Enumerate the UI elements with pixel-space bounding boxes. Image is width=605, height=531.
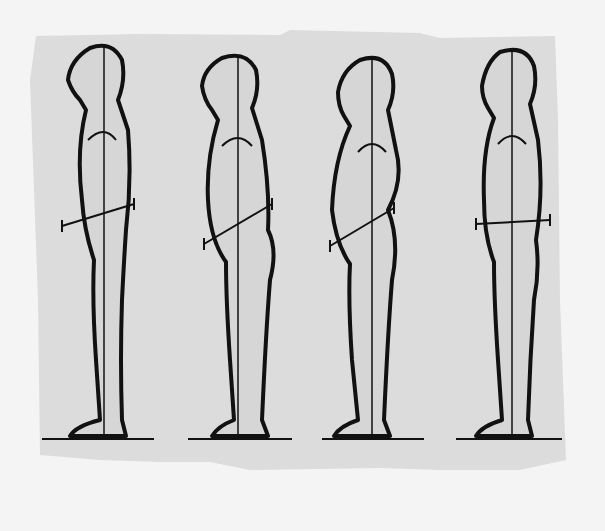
posture-illustration xyxy=(0,0,605,531)
